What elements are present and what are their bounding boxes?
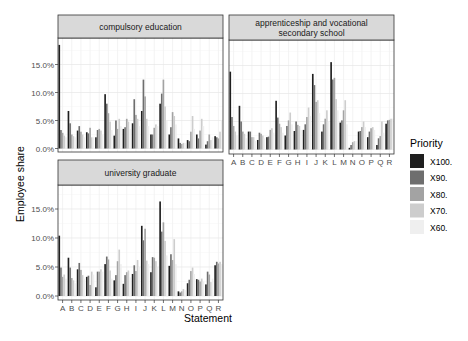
bar-I-X90	[133, 265, 135, 296]
bar-N-X60	[184, 143, 186, 149]
bar-N-X80	[181, 291, 183, 296]
bar-A-X70	[63, 275, 65, 296]
legend: PriorityX100.X90.X80.X70.X60.	[410, 137, 452, 234]
bar-A-X90	[60, 130, 62, 148]
bar-M-X80	[172, 112, 174, 148]
bar-G-X80	[117, 261, 119, 296]
bar-H-X70	[299, 126, 301, 150]
bar-C-X80	[80, 132, 82, 149]
y-tick-label: 5.0%	[36, 263, 54, 272]
bar-O-X70	[192, 116, 194, 148]
bar-J-X100	[141, 226, 143, 296]
bar-H-X60	[300, 130, 302, 150]
bar-M-X70	[173, 239, 175, 296]
bar-M-X70	[344, 100, 346, 149]
bar-B-X90	[240, 122, 242, 150]
bar-J-X80	[144, 229, 146, 296]
panel-2: apprenticeship and vocationalsecondary s…	[229, 15, 394, 167]
bar-H-X80	[297, 125, 299, 150]
legend-swatch-X80	[410, 187, 424, 201]
bar-K-X100	[150, 135, 152, 149]
bar-G-X100	[284, 136, 286, 150]
bar-C-X90	[249, 132, 251, 150]
x-tick-label: F	[106, 304, 111, 313]
bar-A-X60	[65, 137, 67, 148]
bar-G-X100	[113, 136, 115, 149]
bar-G-X90	[115, 275, 117, 296]
bar-M-X100	[339, 123, 341, 150]
bar-O-X100	[187, 140, 189, 148]
x-tick-label: M	[169, 304, 176, 313]
bar-L-X80	[334, 78, 336, 150]
bar-F-X80	[108, 259, 110, 296]
bar-D-X100	[86, 132, 88, 148]
bar-A-X80	[62, 133, 64, 149]
bar-I-X60	[138, 126, 140, 148]
bar-D-X100	[86, 277, 88, 296]
bar-N-X90	[179, 293, 181, 296]
bar-O-X100	[358, 132, 360, 150]
bar-E-X100	[266, 137, 268, 149]
x-tick-label: I	[135, 304, 137, 313]
facet-strip-label: secondary school	[278, 28, 344, 38]
bar-M-X90	[170, 127, 172, 148]
facet-strip-label: apprenticeship and vocational	[255, 18, 368, 28]
bar-F-X100	[275, 101, 277, 150]
bar-F-X80	[108, 113, 110, 148]
bar-M-X100	[168, 135, 170, 149]
bar-J-X90	[143, 80, 145, 149]
bar-L-X90	[161, 94, 163, 149]
bar-C-X100	[77, 269, 79, 296]
x-tick-label: N	[350, 158, 356, 167]
bar-C-X60	[254, 141, 256, 149]
panel-3: university graduate0.0%5.0%10.0%15.0%ABC…	[31, 160, 223, 313]
bar-E-X80	[98, 272, 100, 296]
bar-L-X100	[159, 104, 161, 149]
bar-M-X90	[341, 120, 343, 149]
bar-P-X60	[203, 126, 205, 148]
bar-P-X100	[196, 135, 198, 149]
bar-Q-X60	[212, 279, 214, 296]
x-tick-label: C	[78, 304, 84, 313]
bar-C-X90	[78, 126, 80, 148]
bar-C-X60	[83, 279, 85, 296]
bar-R-X100	[214, 265, 216, 296]
bar-Q-X100	[205, 284, 207, 296]
bar-O-X90	[188, 280, 190, 296]
bar-P-X60	[374, 130, 376, 150]
bar-B-X90	[69, 268, 71, 296]
bar-L-X70	[164, 107, 166, 149]
bar-M-X60	[346, 124, 348, 149]
bar-J-X60	[148, 126, 150, 148]
bar-H-X90	[295, 122, 297, 150]
bar-F-X60	[111, 130, 113, 148]
bar-I-X70	[137, 119, 139, 149]
x-axis-title: Statement	[184, 312, 232, 324]
bar-K-X80	[324, 119, 326, 150]
bar-C-X70	[82, 275, 84, 296]
chart-panels: compulsory education0.0%5.0%10.0%15.0%ap…	[31, 15, 394, 313]
bar-Q-X60	[212, 137, 214, 148]
bar-H-X70	[128, 122, 130, 149]
bar-A-X100	[229, 72, 231, 150]
x-tick-label: B	[240, 158, 245, 167]
bar-E-X90	[97, 272, 99, 296]
bar-R-X80	[218, 264, 220, 296]
x-tick-label: P	[368, 158, 373, 167]
bar-L-X70	[335, 99, 337, 149]
bar-L-X80	[163, 222, 165, 296]
bar-L-X60	[166, 121, 168, 149]
bar-G-X100	[113, 280, 115, 296]
bar-K-X90	[152, 135, 154, 149]
bar-N-X60	[184, 290, 186, 296]
bar-B-X60	[74, 137, 76, 148]
bar-B-X60	[245, 138, 247, 149]
bar-A-X60	[65, 279, 67, 296]
x-tick-label: R	[387, 158, 393, 167]
bar-E-X90	[268, 137, 270, 150]
bar-B-X70	[73, 136, 75, 148]
bar-K-X100	[321, 132, 323, 150]
bar-F-X90	[277, 118, 279, 150]
bar-I-X70	[308, 108, 310, 150]
bar-D-X80	[260, 134, 262, 150]
